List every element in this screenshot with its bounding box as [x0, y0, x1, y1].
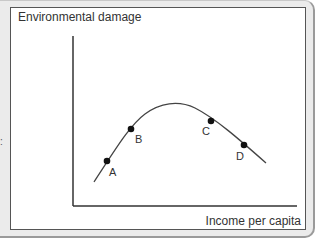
chart-plot: A B C D [0, 0, 319, 246]
point-d-label: D [236, 150, 244, 162]
point-b-marker [128, 126, 135, 133]
point-c-marker [208, 118, 215, 125]
point-d-marker [241, 142, 248, 149]
point-a-label: A [109, 166, 117, 178]
point-b-label: B [135, 133, 142, 145]
kuznets-curve [94, 103, 266, 182]
point-c-label: C [202, 125, 210, 137]
point-a-marker [104, 158, 111, 165]
